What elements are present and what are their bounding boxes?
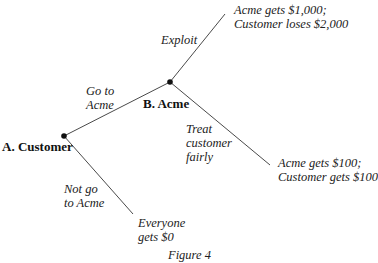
edge-label-line: fairly (186, 150, 232, 164)
edge-label-treat-fairly: Treat customer fairly (186, 122, 232, 164)
edge-label-line: Exploit (161, 33, 197, 47)
node-b-dot (167, 79, 173, 85)
payoff-line: Everyone (138, 216, 185, 230)
payoff-line: Customer gets $100 (278, 170, 378, 184)
edge-label-exploit: Exploit (161, 33, 197, 47)
leaf-payoff-fair: Acme gets $100; Customer gets $100 (278, 156, 378, 184)
edge-label-line: customer (186, 136, 232, 150)
node-b-label: B. Acme (143, 97, 189, 111)
figure-caption: Figure 4 (168, 248, 211, 262)
payoff-line: Acme gets $100; (278, 156, 378, 170)
edge-label-line: to Acme (64, 196, 104, 210)
edge-label-line: Treat (186, 122, 232, 136)
edge-label-not-go-to-acme: Not go to Acme (64, 182, 104, 210)
edge-label-line: Not go (64, 182, 104, 196)
leaf-payoff-exploit: Acme gets $1,000; Customer loses $2,000 (234, 3, 348, 31)
payoff-line: Customer loses $2,000 (234, 17, 348, 31)
node-a-label: A. Customer (2, 140, 73, 154)
leaf-payoff-zero: Everyone gets $0 (138, 216, 185, 244)
payoff-line: gets $0 (138, 230, 185, 244)
edge-exploit (170, 14, 225, 82)
edge-label-line: Go to (86, 84, 114, 98)
edge-label-line: Acme (86, 98, 114, 112)
edge-label-go-to-acme: Go to Acme (86, 84, 114, 112)
node-a-dot (61, 133, 67, 139)
payoff-line: Acme gets $1,000; (234, 3, 348, 17)
